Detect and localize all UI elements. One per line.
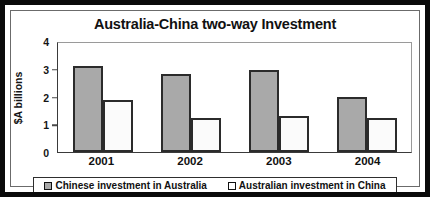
y-axis-tick-label: 2 bbox=[43, 92, 49, 104]
bar-group-2004 bbox=[323, 43, 411, 152]
chart-inner-panel: Australia-China two-way Investment $A bi… bbox=[10, 10, 420, 187]
x-axis-labels: 2001200220032004 bbox=[57, 155, 412, 167]
bar-2004-series2 bbox=[367, 118, 397, 152]
bar-group-2003 bbox=[235, 43, 323, 152]
legend-item-2: Australian investment in China bbox=[228, 180, 386, 191]
bar-groups bbox=[59, 43, 412, 152]
x-axis-label-2004: 2004 bbox=[323, 155, 412, 167]
bar-group-2001 bbox=[59, 43, 147, 152]
y-axis-tick-label: 3 bbox=[43, 64, 49, 76]
y-axis-tick-label: 4 bbox=[43, 36, 49, 48]
x-axis-label-2003: 2003 bbox=[235, 155, 324, 167]
bar-group-2002 bbox=[147, 43, 235, 152]
bar-2003-series2 bbox=[279, 116, 309, 151]
chart-frame: Australia-China two-way Investment $A bi… bbox=[0, 0, 430, 197]
bar-2004-series1 bbox=[337, 97, 367, 151]
legend-label: Chinese investment in Australia bbox=[55, 180, 206, 191]
bar-2003-series1 bbox=[249, 70, 279, 151]
bar-2001-series2 bbox=[103, 100, 133, 152]
chart-title: Australia-China two-way Investment bbox=[11, 16, 419, 32]
chart-legend: Chinese investment in AustraliaAustralia… bbox=[33, 177, 397, 194]
bar-2001-series1 bbox=[73, 66, 103, 151]
legend-swatch-icon-1 bbox=[44, 182, 52, 190]
x-axis-label-2002: 2002 bbox=[146, 155, 235, 167]
legend-label: Australian investment in China bbox=[239, 180, 386, 191]
bar-2002-series1 bbox=[161, 74, 191, 151]
x-axis-label-2001: 2001 bbox=[57, 155, 146, 167]
plot-wrapper bbox=[57, 42, 412, 153]
y-axis-ticks: 01234 bbox=[11, 42, 57, 153]
legend-swatch-icon-2 bbox=[228, 182, 236, 190]
bar-2002-series2 bbox=[191, 118, 221, 152]
y-axis-tick-label: 1 bbox=[43, 119, 49, 131]
y-axis-tick-label: 0 bbox=[43, 147, 49, 159]
legend-item-1: Chinese investment in Australia bbox=[44, 180, 206, 191]
